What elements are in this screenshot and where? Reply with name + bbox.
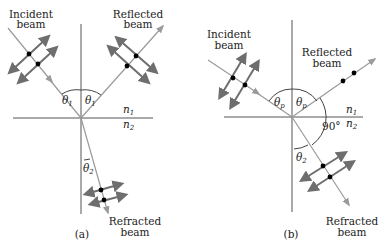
polarization-dot-icon [321,164,326,169]
caption-a: (a) [75,228,89,240]
n2-label-a: n2 [123,118,135,132]
polarization-dot-icon [134,54,139,59]
polarization-dot-icon [36,62,41,67]
theta1-incident-label: θ1 [62,94,73,108]
angle-arc-refracted-b [294,145,308,149]
n2-label-b: n2 [346,117,358,131]
diagram-b: Incident beam Reflected beam Refracted b… [207,20,378,240]
angle-arc-incident-b [269,89,292,101]
polarization-dot-icon [125,64,130,69]
theta2-refracted-label-b: θ2 [296,151,307,165]
polarization-dot-icon [231,76,236,81]
polarization-dot-icon [99,188,104,193]
polarization-dot-icon [352,71,357,76]
polarization-arrow-icon [91,195,125,204]
reflected-label-a-line2: beam [123,18,152,30]
n1-label-a: n1 [123,103,134,117]
incident-label-b-line2: beam [214,39,243,51]
polarization-dot-icon [341,79,346,84]
polarization-dot-icon [328,175,333,180]
polarization-dot-icon [27,52,32,57]
polarization-arrow-icon [86,184,121,194]
theta2-refracted-label: θ2 [83,162,94,176]
thetap-reflected-label: θp [296,96,307,110]
angle-90-label: 90° [322,120,341,132]
reflected-label-b-line2: beam [312,57,341,69]
polarization-dot-icon [243,83,248,88]
theta1-reflected-label: θ1 [85,94,96,108]
polarization-dot-icon [102,198,107,203]
angle-arc-refracted-a [84,159,90,160]
refracted-label-a-line2: beam [120,226,149,238]
n1-label-b: n1 [346,103,357,117]
thetap-incident-label: θp [274,96,285,110]
incident-label-a-line2: beam [16,18,45,30]
diagram-a: Incident beam Reflected beam Refracted b… [8,8,163,240]
caption-b: (b) [284,228,299,240]
refracted-label-b-line2: beam [337,226,366,238]
polarization-diagram: Incident beam Reflected beam Refracted b… [0,0,384,245]
